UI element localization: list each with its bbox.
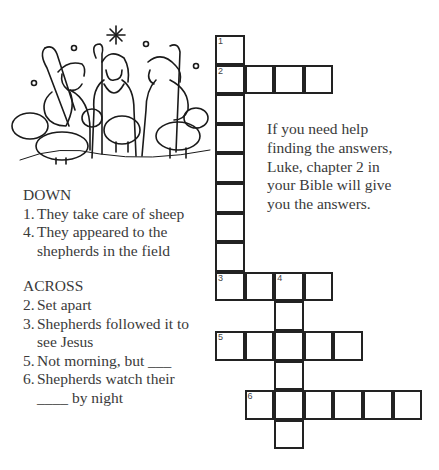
crossword-cell[interactable] [245,65,275,95]
crossword-cell[interactable] [274,331,304,361]
crossword-cell[interactable] [245,272,275,302]
cell-number: 2 [218,66,223,76]
clue-number: 6. [23,370,37,407]
clue-text: Shepherds watch their ____ by night [37,370,175,407]
clue-text: They take care of sheep [37,205,184,224]
clues-panel: DOWN 1. They take care of sheep 4. They … [23,186,189,425]
cell-number: 1 [218,36,223,46]
shepherds-illustration [0,0,215,165]
clue-across-2: 2. Set apart [23,296,189,315]
crossword-cell[interactable] [304,65,334,95]
crossword-cell[interactable] [393,390,423,420]
crossword-cell[interactable] [274,390,304,420]
crossword-cell[interactable] [363,390,393,420]
clue-across-6: 6. Shepherds watch their ____ by night [23,370,189,407]
crossword-cell[interactable] [215,242,245,272]
across-clues: ACROSS 2. Set apart 3. Shepherds followe… [23,277,189,407]
crossword-cell[interactable] [274,65,304,95]
cell-number: 4 [277,273,282,283]
crossword-cell[interactable] [304,331,334,361]
across-heading: ACROSS [23,277,189,296]
down-clues: DOWN 1. They take care of sheep 4. They … [23,186,189,260]
crossword-cell[interactable] [274,361,304,391]
clue-down-1: 1. They take care of sheep [23,205,189,224]
clue-number: 2. [23,296,37,315]
clue-text: Set apart [37,296,92,315]
crossword-cell[interactable]: 3 [215,272,245,302]
clue-number: 5. [23,352,37,371]
clue-text: Shepherds followed it to see Jesus [37,315,189,352]
clue-number: 1. [23,205,37,224]
crossword-cell[interactable] [215,183,245,213]
crossword-cell[interactable] [304,390,334,420]
clue-across-3: 3. Shepherds followed it to see Jesus [23,315,189,352]
crossword-cell[interactable] [304,272,334,302]
crossword-cell[interactable] [215,213,245,243]
crossword-cell[interactable] [215,124,245,154]
crossword-cell[interactable] [245,331,275,361]
cell-number: 5 [218,332,223,342]
cell-number: 6 [248,391,253,401]
crossword-cell[interactable] [215,153,245,183]
crossword-cell[interactable] [274,301,304,331]
crossword-cell[interactable] [274,420,304,450]
crossword-cell[interactable]: 6 [245,390,275,420]
crossword-cell[interactable]: 1 [215,35,245,65]
help-text: If you need help finding the answers, Lu… [267,120,407,214]
crossword-cell[interactable] [215,94,245,124]
clue-text: Not morning, but ___ [37,352,171,371]
clue-number: 3. [23,315,37,352]
crossword-cell[interactable] [333,331,363,361]
down-heading: DOWN [23,186,189,205]
crossword-cell[interactable]: 4 [274,272,304,302]
crossword-cell[interactable]: 2 [215,65,245,95]
crossword-cell[interactable]: 5 [215,331,245,361]
star-icon [107,26,125,44]
clue-number: 4. [23,223,37,260]
crossword-cell[interactable] [333,390,363,420]
clue-text: They appeared to the shepherds in the fi… [37,223,170,260]
clue-across-5: 5. Not morning, but ___ [23,352,189,371]
clue-down-4: 4. They appeared to the shepherds in the… [23,223,189,260]
cell-number: 3 [218,273,223,283]
